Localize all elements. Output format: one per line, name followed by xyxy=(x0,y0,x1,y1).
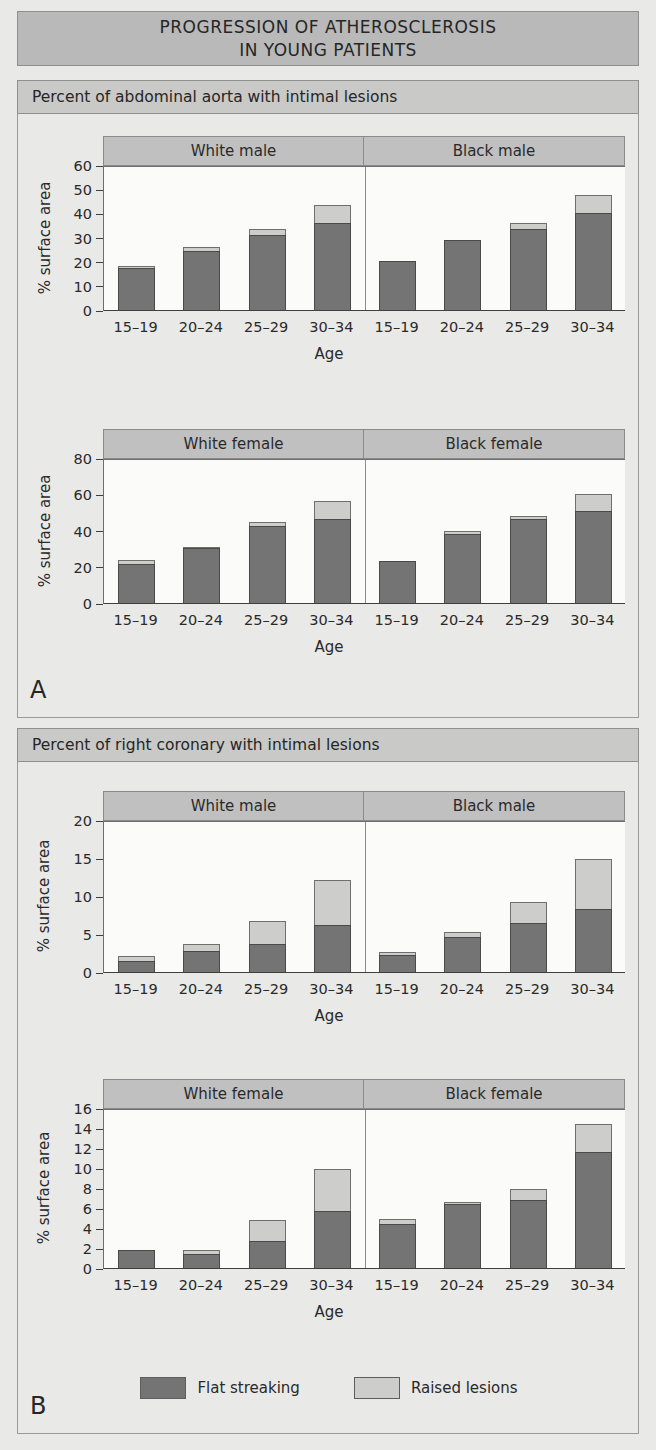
y-tick-label: 16 xyxy=(18,1100,103,1118)
panel-a-caption: Percent of abdominal aorta with intimal … xyxy=(17,80,639,114)
bar-segment-raised-lesions xyxy=(249,1220,286,1241)
y-tick-label: 5 xyxy=(18,926,103,944)
bar-segment-raised-lesions xyxy=(510,1189,547,1200)
bar-black-female-15-19 xyxy=(379,561,416,604)
x-tick-label: 15–19 xyxy=(364,612,429,628)
x-tick-label: 30–34 xyxy=(299,981,364,997)
bar-segment-flat-streaking xyxy=(575,511,612,604)
x-tick-label: 20–24 xyxy=(168,981,233,997)
bar-segment-flat-streaking xyxy=(575,1152,612,1269)
x-tick-label: 30–34 xyxy=(560,981,625,997)
x-tick-label: 15–19 xyxy=(364,319,429,335)
y-axis: 05101520 xyxy=(18,821,103,973)
x-tick-label: 25–29 xyxy=(234,981,299,997)
panel-a: Percent of abdominal aorta with intimal … xyxy=(17,80,639,718)
y-tick-label: 80 xyxy=(18,450,103,468)
x-tick-label: 15–19 xyxy=(364,1277,429,1293)
y-tick-label: 4 xyxy=(18,1220,103,1238)
y-tick-label: 10 xyxy=(18,888,103,906)
y-axis-label: % surface area xyxy=(35,820,53,972)
bar-segment-flat-streaking xyxy=(183,951,220,973)
bar-white-female-20-24 xyxy=(183,547,220,604)
y-tick-label: 15 xyxy=(18,850,103,868)
bar-segment-raised-lesions xyxy=(510,902,547,923)
bar-black-male-15-19 xyxy=(379,952,416,973)
y-tick-label: 12 xyxy=(18,1140,103,1158)
legend-swatch-raised-lesions xyxy=(354,1377,400,1399)
bar-segment-flat-streaking xyxy=(575,909,612,973)
bar-segment-flat-streaking xyxy=(444,937,481,973)
legend-label-flat-streaking: Flat streaking xyxy=(197,1379,299,1397)
panel-b-caption: Percent of right coronary with intimal l… xyxy=(17,728,639,762)
bar-segment-flat-streaking xyxy=(314,519,351,604)
bar-black-female-30-34 xyxy=(575,494,612,604)
y-tick-label: 10 xyxy=(18,278,103,296)
bar-segment-raised-lesions xyxy=(314,1169,351,1211)
bar-segment-flat-streaking xyxy=(118,268,155,311)
group-header-black-male: Black male xyxy=(364,137,624,165)
y-axis-label: % surface area xyxy=(35,1108,53,1268)
bar-white-female-30-34 xyxy=(314,1169,351,1269)
bar-segment-flat-streaking xyxy=(118,1250,155,1269)
y-tick-label: 60 xyxy=(18,157,103,175)
figure-title-line2: IN YOUNG PATIENTS xyxy=(160,39,497,62)
bar-black-male-25-29 xyxy=(510,223,547,311)
bar-segment-flat-streaking xyxy=(118,961,155,973)
bar-segment-flat-streaking xyxy=(379,261,416,311)
bar-segment-raised-lesions xyxy=(575,494,612,510)
bar-white-male-25-29 xyxy=(249,229,286,311)
panel-a-letter: A xyxy=(30,676,46,704)
plot-area xyxy=(103,459,625,604)
x-tick-label: 20–24 xyxy=(429,612,494,628)
bar-black-male-20-24 xyxy=(444,932,481,973)
x-axis-label: Age xyxy=(18,1007,640,1025)
x-tick-label: 25–29 xyxy=(495,981,560,997)
bar-white-female-15-19 xyxy=(118,1250,155,1269)
group-header-white-male: White male xyxy=(104,792,364,820)
y-tick-label: 50 xyxy=(18,181,103,199)
y-tick-label: 14 xyxy=(18,1120,103,1138)
x-tick-label: 15–19 xyxy=(103,981,168,997)
legend-item-raised-lesions: Raised lesions xyxy=(354,1377,518,1399)
bar-segment-flat-streaking xyxy=(183,251,220,311)
bar-segment-flat-streaking xyxy=(249,1241,286,1269)
bar-white-male-30-34 xyxy=(314,880,351,973)
plot-area xyxy=(103,821,625,973)
x-tick-label: 25–29 xyxy=(234,1277,299,1293)
bar-black-female-15-19 xyxy=(379,1219,416,1269)
bar-segment-flat-streaking xyxy=(118,564,155,604)
y-axis: 0246810121416 xyxy=(18,1109,103,1269)
chart-coronary-female: White femaleBlack female0246810121416% s… xyxy=(18,1079,640,1329)
x-tick-label: 25–29 xyxy=(495,319,560,335)
x-tick-label: 15–19 xyxy=(103,612,168,628)
bar-white-male-15-19 xyxy=(118,956,155,973)
group-divider xyxy=(365,460,366,604)
panel-b: Percent of right coronary with intimal l… xyxy=(17,728,639,1434)
bar-black-female-20-24 xyxy=(444,531,481,604)
y-tick-label: 20 xyxy=(18,254,103,272)
x-axis-label: Age xyxy=(18,345,640,363)
y-tick-label: 0 xyxy=(18,1260,103,1278)
y-tick-label: 10 xyxy=(18,1160,103,1178)
x-tick-label: 30–34 xyxy=(299,1277,364,1293)
bar-white-female-30-34 xyxy=(314,501,351,604)
x-tick-label: 25–29 xyxy=(234,319,299,335)
bar-segment-flat-streaking xyxy=(444,240,481,311)
bar-black-male-20-24 xyxy=(444,240,481,311)
group-header-band: White femaleBlack female xyxy=(103,429,625,459)
y-tick-label: 0 xyxy=(18,595,103,613)
chart-coronary-male: White maleBlack male05101520% surface ar… xyxy=(18,791,640,1033)
x-tick-label: 30–34 xyxy=(299,319,364,335)
x-tick-label: 20–24 xyxy=(429,981,494,997)
bar-segment-flat-streaking xyxy=(379,561,416,604)
bar-segment-raised-lesions xyxy=(575,1124,612,1152)
bar-segment-raised-lesions xyxy=(314,501,351,519)
plot-area xyxy=(103,1109,625,1269)
bar-segment-flat-streaking xyxy=(379,955,416,973)
bar-white-male-25-29 xyxy=(249,921,286,973)
y-tick-label: 30 xyxy=(18,230,103,248)
y-tick-label: 60 xyxy=(18,486,103,504)
group-header-black-female: Black female xyxy=(364,430,624,458)
y-tick-label: 8 xyxy=(18,1180,103,1198)
legend-swatch-flat-streaking xyxy=(140,1377,186,1399)
